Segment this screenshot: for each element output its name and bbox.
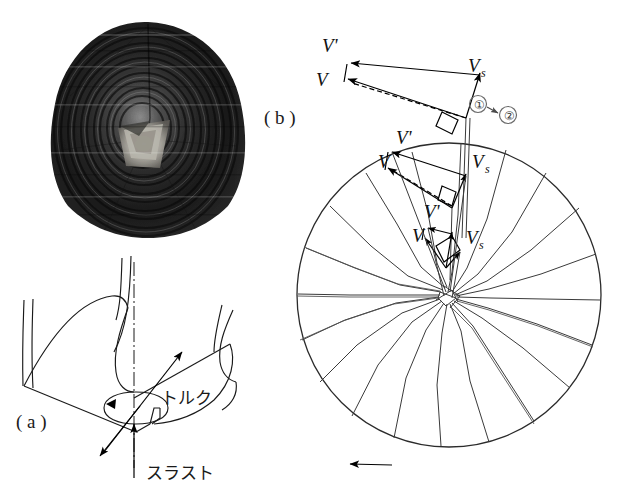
rotor-hub	[436, 286, 460, 308]
label-vprime-hub: V'	[424, 201, 441, 222]
rotation-direction-arrow	[350, 464, 392, 465]
station-one-label: ①	[474, 98, 485, 112]
label-vs-mid: V	[472, 151, 486, 172]
panel-a-caption: ( a )	[16, 411, 47, 433]
label-v-tip: V	[316, 69, 330, 90]
shell-specimen-photograph	[48, 22, 248, 238]
vector-vprime-mid	[392, 152, 466, 176]
station-markers: ① ②	[470, 96, 517, 124]
torque-label: トルク	[161, 388, 212, 408]
figure-canvas: トルク スラスト ( a ) ( b )	[0, 0, 620, 502]
figure-root: トルク スラスト ( a ) ( b )	[0, 0, 620, 502]
thrust-label: スラスト	[146, 463, 214, 483]
panel-a-drill-diagram: トルク スラスト ( a )	[16, 256, 236, 483]
station-link-arrow	[487, 107, 498, 113]
label-vs-mid-sub: s	[485, 162, 490, 176]
label-vprime-mid: V'	[396, 127, 413, 148]
vector-closure-tip	[344, 64, 347, 82]
construction-lines	[392, 152, 466, 298]
right-angle-marker-mid	[438, 186, 456, 206]
station-two-label: ②	[504, 109, 515, 123]
radial-reference-tip-2	[466, 118, 470, 238]
label-vs-tip-sub: s	[481, 66, 486, 80]
right-angle-marker-tip	[436, 112, 458, 134]
velocity-triangle-hub: V' V V s	[412, 201, 484, 268]
label-vs-hub-sub: s	[479, 238, 484, 252]
label-vs-hub: V	[466, 227, 480, 248]
label-vs-tip: V	[468, 55, 482, 76]
label-vprime-tip: V'	[322, 35, 339, 56]
vector-v-tip-dashed	[352, 83, 466, 118]
rotor-blade-backs	[297, 247, 593, 424]
panel-b-rotor-diagram: ( b )	[264, 35, 601, 465]
vector-vprime-tip	[351, 63, 480, 75]
panel-b-caption: ( b )	[264, 107, 296, 129]
